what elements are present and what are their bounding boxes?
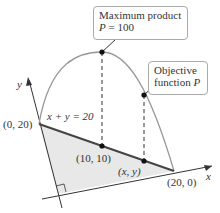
point-xy xyxy=(141,158,146,163)
y-axis-label: y xyxy=(16,78,22,90)
callout-maximum-title: Maximum product xyxy=(99,9,182,21)
label-20-0: (20, 0) xyxy=(167,176,197,189)
label-0-20: (0, 20) xyxy=(3,118,33,131)
y-axis-arrow-icon xyxy=(26,77,32,86)
pointer-max xyxy=(102,40,115,52)
callout-objective-sub: function P xyxy=(154,76,202,88)
label-10-10: (10, 10) xyxy=(76,152,111,165)
x-axis-label: x xyxy=(205,170,211,182)
point-10-10 xyxy=(99,143,104,148)
objective-point xyxy=(141,92,146,97)
label-xy: (x, y) xyxy=(118,165,141,178)
callout-objective-title: Objective xyxy=(154,64,202,76)
var-p: P xyxy=(193,76,200,88)
callout-maximum: Maximum product P = 100 xyxy=(93,6,188,40)
equation-label: x + y = 20 xyxy=(46,110,94,122)
func-text: function xyxy=(154,76,193,88)
callout-maximum-value: P = 100 xyxy=(99,21,182,33)
var-p: P xyxy=(99,21,106,33)
max-point xyxy=(99,49,104,54)
diagram: y x x + y = 20 (0, 20) (10, 10) (x, y) (… xyxy=(0,0,220,213)
callout-objective: Objective function P xyxy=(148,61,208,95)
value-text: = 100 xyxy=(106,21,134,33)
